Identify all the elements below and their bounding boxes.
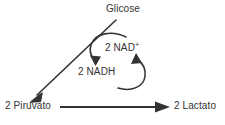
lactato-label: 2 Lactato: [174, 101, 216, 111]
nadh-to-nad-curve-arrow: [118, 53, 145, 89]
glicose-to-piruvato-arrow: [29, 20, 116, 103]
glicose-label: Glicose: [90, 4, 156, 14]
nad-plus-label: 2 NAD+: [105, 43, 139, 53]
nadh-label: 2 NADH: [78, 67, 115, 77]
piruvato-to-lactato-arrow: [60, 102, 170, 113]
nad-plus-text: 2 NAD: [105, 42, 135, 53]
nad-plus-charge-superscript: +: [135, 41, 139, 48]
diagram-canvas: Glicose 2 NAD+ 2 NADH 2 Piruvato 2 Lacta…: [0, 0, 225, 125]
piruvato-label: 2 Piruvato: [5, 101, 51, 111]
